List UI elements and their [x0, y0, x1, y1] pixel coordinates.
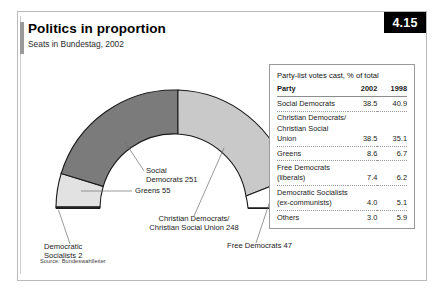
leader-line-social-democrats [125, 142, 144, 171]
title-block: Politics in proportion Seats in Bundesta… [28, 21, 166, 49]
hemicycle-chart: Social Democrats 251 Greens 55 Democrati… [24, 58, 292, 258]
votes-table-box: Party-list votes cast, % of total Party … [269, 64, 415, 229]
row-name-free-democrats-l1: Free Democrats [277, 161, 348, 173]
row-name-democratic-socialists-l1: Democratic Socialists [277, 186, 348, 198]
column-header-party: Party [277, 84, 348, 97]
row-name-christian-democrats-l3: Union [277, 134, 348, 146]
row-name-democratic-socialists-l2: (ex-communists) [277, 198, 348, 210]
row-2002-social-democrats: 38.5 [348, 97, 378, 111]
row-2002-greens: 8.6 [348, 147, 378, 161]
label-social-democrats: Social Democrats 251 [146, 166, 198, 185]
row-1998-christian-democrats: 35.1 [377, 134, 407, 146]
figure-number-badge: 4.15 [384, 12, 426, 33]
label-christian-democrats-line2: Christian Social Union 248 [116, 223, 272, 232]
row-name-others: Others [277, 211, 348, 223]
label-democratic-socialists-line1: Democratic [44, 242, 82, 251]
row-1998-free-democrats: 6.2 [377, 173, 407, 185]
page-title: Politics in proportion [28, 21, 166, 36]
row-1998-democratic-socialists: 5.1 [377, 198, 407, 210]
label-christian-democrats-line1: Christian Democrats/ [116, 214, 272, 223]
table-row: (liberals) 7.4 6.2 [277, 173, 407, 185]
label-free-democrats: Free Democrats 47 [164, 241, 292, 250]
row-name-social-democrats: Social Democrats [277, 97, 348, 111]
label-social-democrats-line2: Democrats 251 [146, 175, 198, 184]
row-2002-free-democrats: 7.4 [348, 173, 378, 185]
row-name-free-democrats-l2: (liberals) [277, 173, 348, 185]
table-row: Union 38.5 35.1 [277, 134, 407, 146]
table-row: Greens 8.6 6.7 [277, 147, 407, 161]
table-row-christian-democrats-line2: Christian Social [277, 124, 407, 134]
leader-line-democratic-socialists [59, 210, 71, 244]
row-2002-christian-democrats: 38.5 [348, 134, 378, 146]
table-row-democratic-socialists-line1: Democratic Socialists [277, 186, 407, 198]
column-header-2002: 2002 [348, 84, 378, 97]
table-row-christian-democrats-line1: Christian Democrats/ [277, 111, 407, 123]
row-name-christian-democrats-l2: Christian Social [277, 124, 348, 134]
leader-line-christian-democrats [194, 148, 224, 216]
table-header-row: Party 2002 1998 [277, 84, 407, 97]
table-row: Others 3.0 5.9 [277, 211, 407, 223]
table-row: (ex-communists) 4.0 5.1 [277, 198, 407, 210]
label-greens: Greens 55 [135, 186, 170, 195]
column-header-1998: 1998 [377, 84, 407, 97]
row-1998-others: 5.9 [377, 211, 407, 223]
table-row-free-democrats-line1: Free Democrats [277, 161, 407, 173]
label-christian-democrats: Christian Democrats/ Christian Social Un… [116, 214, 272, 233]
table-caption: Party-list votes cast, % of total [277, 71, 407, 81]
title-accent-bar [20, 22, 24, 54]
source-note: Source: Bundeswahlleiter [40, 258, 106, 264]
row-2002-democratic-socialists: 4.0 [348, 198, 378, 210]
row-1998-greens: 6.7 [377, 147, 407, 161]
row-2002-others: 3.0 [348, 211, 378, 223]
row-1998-social-democrats: 40.9 [377, 97, 407, 111]
page-subtitle: Seats in Bundestag, 2002 [28, 39, 166, 49]
table-row: Social Democrats 38.5 40.9 [277, 97, 407, 111]
votes-table: Party 2002 1998 Social Democrats 38.5 40… [277, 84, 407, 223]
left-rule-divider [20, 16, 21, 274]
figure-panel: 4.15 Politics in proportion Seats in Bun… [17, 11, 427, 281]
figure-number: 4.15 [392, 16, 417, 30]
figure-root: 4.15 Politics in proportion Seats in Bun… [0, 0, 442, 297]
row-name-greens: Greens [277, 147, 348, 161]
label-social-democrats-line1: Social [146, 166, 198, 175]
row-name-christian-democrats-l1: Christian Democrats/ [277, 111, 348, 123]
